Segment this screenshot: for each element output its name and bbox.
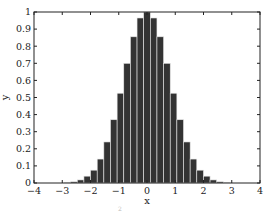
histogram-bar: [170, 93, 177, 183]
x-tick-label: 3: [229, 185, 235, 196]
histogram-bar: [190, 159, 197, 183]
histogram-bar: [157, 37, 164, 183]
histogram-bar: [124, 63, 131, 183]
x-tick-label: 1: [172, 185, 178, 196]
histogram-bar: [117, 93, 124, 183]
x-tick-label: −1: [112, 185, 126, 196]
x-tick-label: 2: [200, 185, 206, 196]
histogram-bar: [164, 63, 171, 183]
histogram-bar: [130, 37, 137, 183]
bars: [64, 12, 230, 183]
y-tick-label: 0.2: [16, 143, 31, 154]
y-tick-label: 1: [25, 6, 31, 17]
histogram-bar: [97, 159, 104, 183]
histogram-bar: [203, 176, 210, 183]
x-tick-label: −2: [83, 185, 97, 196]
histogram-bar: [144, 12, 151, 183]
x-tick-label: −4: [27, 185, 41, 196]
histogram-bar: [197, 170, 204, 183]
histogram-bar: [177, 120, 184, 183]
y-axis-label: y: [0, 94, 10, 101]
x-tick-label: −3: [55, 185, 69, 196]
y-tick-label: 0.8: [16, 41, 31, 52]
y-tick-label: 0.5: [16, 92, 31, 103]
y-tick-label: 0.4: [16, 109, 31, 120]
histogram-bar: [104, 142, 111, 183]
y-tick-label: 0.7: [16, 58, 31, 69]
histogram-bar: [84, 176, 91, 183]
histogram-bar: [110, 120, 117, 183]
y-tick-label: 0.1: [16, 160, 31, 171]
histogram-bar: [137, 18, 144, 183]
histogram-chart: 00.10.20.30.40.50.60.70.80.91 −4−3−2−101…: [0, 0, 265, 215]
histogram-bar: [150, 18, 157, 183]
y-tick-label: 0.6: [16, 75, 31, 86]
x-tick-label: 4: [257, 185, 263, 196]
histogram-bar: [184, 142, 191, 183]
y-tick-label: 0.3: [16, 126, 31, 137]
caption-fragment: 2: [118, 205, 122, 212]
x-axis-label: x: [144, 195, 150, 206]
histogram-bar: [91, 170, 98, 183]
y-tick-label: 0.9: [16, 23, 31, 34]
